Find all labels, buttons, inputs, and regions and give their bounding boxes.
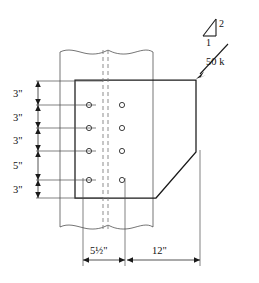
dimension-arrow — [35, 105, 41, 111]
bolt-hole — [119, 125, 124, 130]
dimension-label-h2: 12" — [152, 245, 167, 256]
bolt-hole — [119, 177, 124, 182]
engineering-drawing: 3" 3" 3" 5" 3" 5½" 12" 50 — [0, 0, 259, 283]
dimension-arrow — [35, 151, 41, 157]
column-member — [60, 50, 153, 229]
dimension-arrow — [194, 257, 200, 262]
bolt-hole — [119, 148, 124, 153]
dimension-arrow — [35, 192, 41, 198]
slope-rise-label: 2 — [219, 18, 224, 29]
dimension-label-v4: 5" — [13, 160, 23, 171]
vertical-dimension-chain — [35, 81, 41, 198]
slope-triangle — [203, 19, 216, 36]
slope-hypotenuse — [203, 19, 216, 36]
dimension-arrow — [119, 257, 125, 262]
vertical-extension-lines — [36, 81, 103, 198]
dimension-label-h1: 5½" — [90, 245, 107, 256]
dimension-label-v1: 3" — [13, 88, 23, 99]
dimension-arrow — [35, 122, 41, 128]
dimension-arrow — [35, 180, 41, 186]
break-line-top — [60, 50, 153, 54]
dimension-arrow — [35, 81, 41, 87]
horizontal-dimension-chain — [83, 257, 200, 262]
dimension-label-v2: 3" — [13, 112, 23, 123]
load-magnitude-label: 50 k — [206, 56, 225, 67]
break-line-bottom — [60, 225, 153, 229]
dimension-arrow — [35, 145, 41, 151]
bolt-hole — [119, 102, 124, 107]
dimension-arrow — [127, 257, 133, 262]
dimension-arrow — [35, 128, 41, 134]
slope-run-label: 1 — [206, 37, 211, 48]
dimension-arrow — [35, 99, 41, 105]
dimension-arrow — [35, 174, 41, 180]
dimension-label-v3: 3" — [13, 135, 23, 146]
dimension-arrow — [83, 257, 89, 262]
dimension-label-v5: 3" — [13, 184, 23, 195]
bolt-hole-group — [86, 102, 124, 182]
centerlines — [103, 50, 108, 232]
